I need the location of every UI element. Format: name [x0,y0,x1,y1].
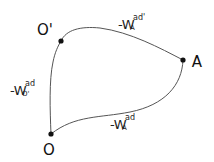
point-dot-a [180,57,185,62]
edge-label-a-o: -WadA [110,116,142,134]
superscript: ad [125,114,135,122]
edge-o-to-oprime [50,41,61,134]
point-label-oprime: O' [37,23,53,38]
point-label-o: O [43,143,55,158]
point-label-a: A [192,55,202,70]
edge-label-oprime-a: -Wad'A [118,16,150,34]
superscript: ad [25,80,35,88]
subscript: O' [22,91,29,98]
edge-label-o-oprime: -WadO' [10,82,42,100]
point-dot-oprime [58,38,63,43]
superscript: ad' [133,14,145,22]
subscript: A [122,125,127,132]
point-dot-o [48,131,53,136]
subscript: A [130,25,135,32]
